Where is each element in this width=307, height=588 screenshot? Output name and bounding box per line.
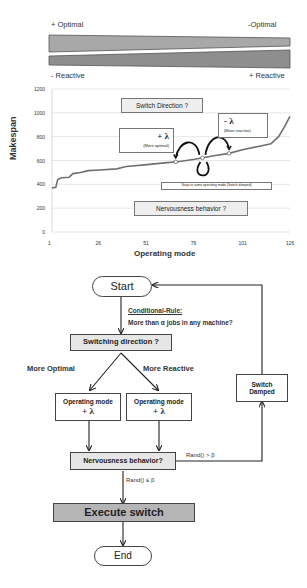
switch-damped-node: Switch Damped [236, 374, 288, 402]
more-optimal-label: More Optimal [27, 364, 75, 373]
more-reactive-label: More Reactive [143, 364, 194, 373]
switch-damped-line1: Switch [252, 381, 273, 388]
switch-damped-line2: Damped [249, 388, 275, 395]
rand-greater-beta-label: Rand() > β [186, 452, 215, 458]
start-node: Start [92, 276, 152, 297]
switching-direction-node: Switching direction ? [70, 334, 172, 351]
nervousness-behavior-node: Nervousness behavior? [70, 452, 176, 470]
operating-mode-left-node: Operating mode + λ [55, 393, 121, 421]
conditional-rule-text: More than α jobs in any machine? [128, 319, 233, 326]
operating-mode-right-line2: + λ [153, 406, 165, 416]
operating-mode-right-line1: Operating mode [134, 398, 184, 405]
execute-switch-node: Execute switch [53, 503, 195, 522]
operating-mode-left-line2: + λ [82, 406, 94, 416]
rand-le-beta-label: Rand() ≤ β [126, 477, 154, 483]
end-node: End [94, 546, 152, 566]
operating-mode-left-line1: Operating mode [63, 398, 113, 405]
operating-mode-right-node: Operating mode + λ [126, 393, 192, 421]
conditional-rule-title: Conditional-Rule: [128, 307, 182, 314]
flowchart-connectors [0, 0, 307, 588]
